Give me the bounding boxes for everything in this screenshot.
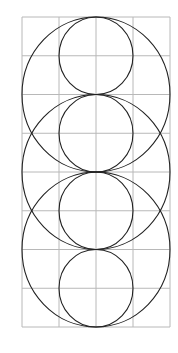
circle-grid-diagram (0, 0, 178, 353)
